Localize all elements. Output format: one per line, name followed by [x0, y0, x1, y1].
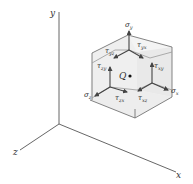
stress-element-diagram: y z x Q σy τyx τyz σx	[0, 0, 193, 184]
z-axis	[20, 124, 59, 150]
sigma-y-label: σy	[125, 21, 133, 31]
x-axis	[59, 124, 176, 172]
z-axis-label: z	[12, 147, 18, 157]
y-axis-label: y	[49, 8, 56, 18]
x-axis-label: x	[176, 170, 181, 180]
point-q-label: Q	[119, 71, 127, 81]
point-q-dot	[128, 74, 131, 77]
sigma-x-label: σx	[171, 87, 179, 96]
